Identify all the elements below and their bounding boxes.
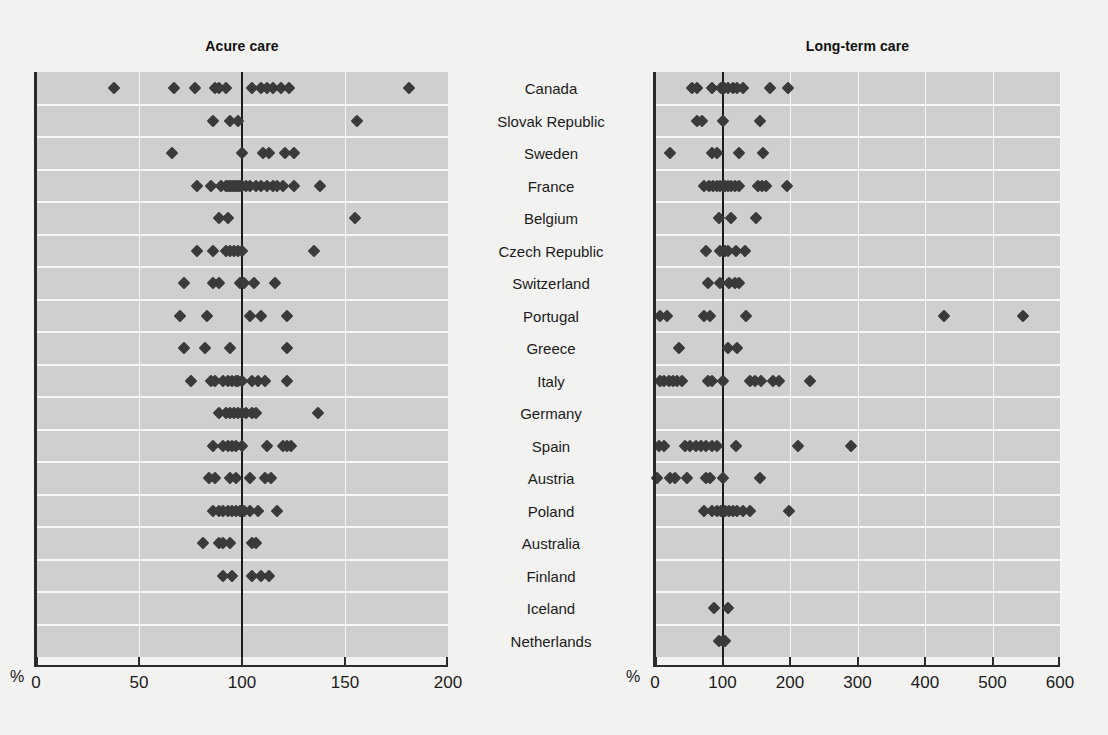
data-point <box>938 309 951 322</box>
data-point <box>731 342 744 355</box>
x-axis-tick-label: 150 <box>331 673 359 693</box>
acute-care-plot-area <box>36 72 448 657</box>
data-point <box>190 179 203 192</box>
data-point <box>672 342 685 355</box>
data-point <box>281 309 294 322</box>
data-point <box>184 374 197 387</box>
x-axis-tick <box>992 657 994 665</box>
data-point <box>351 114 364 127</box>
data-point <box>254 309 267 322</box>
category-label-australia: Australia <box>522 535 580 552</box>
x-axis-tick-label: 50 <box>130 673 149 693</box>
x-axis-tick-label: 400 <box>911 673 939 693</box>
gridline-horizontal <box>655 266 1060 268</box>
data-point <box>402 82 415 95</box>
data-point <box>108 82 121 95</box>
gridline-horizontal <box>655 234 1060 236</box>
gridline-horizontal <box>655 494 1060 496</box>
data-point <box>661 309 674 322</box>
data-point <box>757 147 770 160</box>
data-point <box>201 309 214 322</box>
data-point <box>844 439 857 452</box>
data-point <box>782 504 795 517</box>
data-point <box>753 114 766 127</box>
category-label-canada: Canada <box>525 80 578 97</box>
long-term-care-plot-area <box>655 72 1060 657</box>
gridline-horizontal <box>655 201 1060 203</box>
category-label-iceland: Iceland <box>527 600 575 617</box>
data-point <box>713 212 726 225</box>
x-axis-tick <box>138 657 140 665</box>
data-point <box>763 82 776 95</box>
category-label-greece: Greece <box>526 340 575 357</box>
data-point <box>244 472 257 485</box>
data-point <box>716 114 729 127</box>
data-point <box>753 472 766 485</box>
gridline-horizontal <box>655 429 1060 431</box>
y-axis-spine <box>653 72 656 667</box>
gridline-horizontal <box>655 299 1060 301</box>
data-point <box>196 537 209 550</box>
x-axis-tick-label: 100 <box>708 673 736 693</box>
x-axis-end-cap <box>655 657 657 667</box>
percent-label-right: % <box>626 668 640 686</box>
data-point <box>199 342 212 355</box>
data-point <box>287 147 300 160</box>
gridline-vertical <box>1060 72 1061 657</box>
data-point <box>308 244 321 257</box>
data-point <box>701 277 714 290</box>
data-point <box>166 147 179 160</box>
x-axis-end-cap <box>36 657 38 667</box>
data-point <box>724 212 737 225</box>
data-point <box>716 472 729 485</box>
data-point <box>223 342 236 355</box>
data-point <box>750 212 763 225</box>
data-point <box>708 602 721 615</box>
category-label-slovak-republic: Slovak Republic <box>497 112 605 129</box>
data-point <box>804 374 817 387</box>
data-point <box>314 179 327 192</box>
category-label-czech-republic: Czech Republic <box>498 242 603 259</box>
category-label-germany: Germany <box>520 405 582 422</box>
gridline-horizontal <box>655 559 1060 561</box>
data-point <box>207 114 220 127</box>
gridline-horizontal <box>655 396 1060 398</box>
data-point <box>178 277 191 290</box>
gridline-horizontal <box>655 591 1060 593</box>
data-point <box>287 179 300 192</box>
x-axis-line <box>36 665 448 667</box>
x-axis-line <box>655 665 1060 667</box>
category-label-belgium: Belgium <box>524 210 578 227</box>
category-label-italy: Italy <box>537 372 565 389</box>
data-point <box>262 569 275 582</box>
data-point <box>782 82 795 95</box>
x-axis-end-cap <box>1058 657 1060 667</box>
x-axis-tick <box>857 657 859 665</box>
gridline-horizontal <box>655 624 1060 626</box>
x-axis-tick <box>241 657 243 665</box>
data-point <box>190 244 203 257</box>
data-point <box>781 179 794 192</box>
data-point <box>271 504 284 517</box>
data-point <box>236 147 249 160</box>
gridline-horizontal <box>655 461 1060 463</box>
x-axis-tick-label: 0 <box>31 673 40 693</box>
data-point <box>221 212 234 225</box>
data-point <box>168 82 181 95</box>
gridline-horizontal <box>655 364 1060 366</box>
data-point <box>269 277 282 290</box>
x-axis-tick <box>924 657 926 665</box>
data-point <box>663 147 676 160</box>
category-label-france: France <box>528 177 575 194</box>
reference-line-100 <box>722 72 724 657</box>
chart-title-acute-care: Acure care <box>36 38 448 54</box>
data-point <box>225 569 238 582</box>
gridline-horizontal <box>655 169 1060 171</box>
figure-canvas: Acure care Long-term care CanadaSlovak R… <box>0 0 1108 735</box>
data-point <box>740 309 753 322</box>
gridline-horizontal <box>655 331 1060 333</box>
x-axis-tick-label: 200 <box>434 673 462 693</box>
data-point <box>312 407 325 420</box>
data-point <box>281 374 294 387</box>
x-axis-tick-label: 200 <box>776 673 804 693</box>
